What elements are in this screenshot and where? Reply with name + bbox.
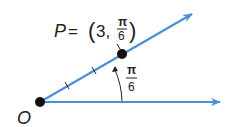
theta-numerator: π — [118, 15, 127, 29]
equals-sign: = — [68, 22, 78, 41]
origin-label: O — [17, 108, 31, 127]
angle-arc-icon — [115, 70, 122, 101]
origin-point — [35, 97, 45, 107]
point-label: P — [54, 21, 66, 41]
theta-denominator: 6 — [118, 29, 125, 43]
angle-numerator: π — [127, 63, 136, 77]
point-p — [117, 49, 127, 59]
polar-diagram: P = ( 3, π 6 ) O π 6 — [0, 0, 225, 127]
paren-open: ( — [88, 18, 96, 43]
tick-mark-3 — [117, 44, 120, 49]
r-value: 3, — [96, 22, 110, 41]
diagram-svg: P = ( 3, π 6 ) O π 6 — [0, 0, 225, 127]
paren-close: ) — [129, 18, 136, 43]
angle-denominator: 6 — [128, 80, 135, 94]
